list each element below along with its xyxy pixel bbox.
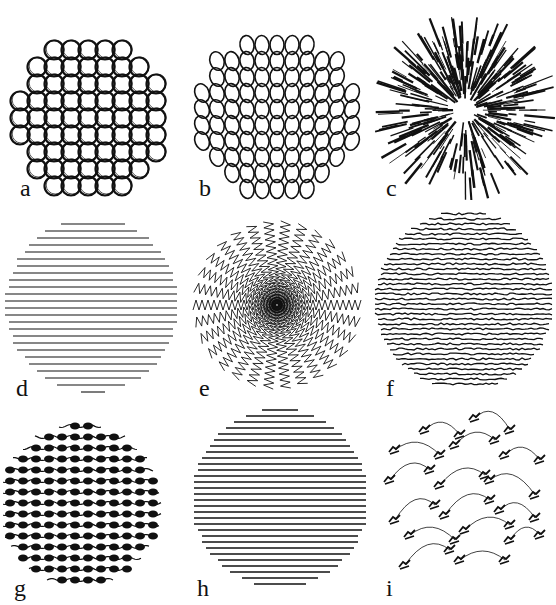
- dense-triangles-pattern: [185, 400, 370, 600]
- loops-pattern: [185, 0, 370, 200]
- panel-i: i: [370, 400, 555, 600]
- packed-circles-pattern: [0, 0, 185, 200]
- panel-label: h: [197, 576, 209, 600]
- panel-d: d: [0, 200, 185, 400]
- horizontal-zigzag-pattern: [0, 200, 185, 400]
- panel-label: a: [20, 176, 31, 200]
- panel-label: d: [16, 376, 28, 400]
- panel-b: b: [185, 0, 370, 200]
- panel-f: f: [370, 200, 555, 400]
- panel-label: b: [199, 176, 211, 200]
- radial-strokes-pattern: [370, 0, 555, 200]
- arcs-with-hooks-pattern: [370, 400, 555, 600]
- panel-label: f: [386, 376, 394, 400]
- radial-zigzag-pattern: [185, 200, 370, 400]
- panel-label: g: [14, 576, 26, 600]
- wavy-rows-pattern: [0, 400, 185, 600]
- panel-label: i: [386, 576, 393, 600]
- panel-h: h: [185, 400, 370, 600]
- panel-g: g: [0, 400, 185, 600]
- panel-label: c: [386, 176, 397, 200]
- panel-label: e: [199, 376, 210, 400]
- panel-e: e: [185, 200, 370, 400]
- panel-c: c: [370, 0, 555, 200]
- panel-a: a: [0, 0, 185, 200]
- dense-zigzag-pattern: [370, 200, 555, 400]
